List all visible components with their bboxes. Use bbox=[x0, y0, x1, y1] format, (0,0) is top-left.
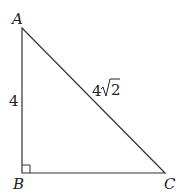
side-label-ac: 4 2 bbox=[92, 79, 121, 100]
triangle-abc bbox=[22, 28, 165, 173]
right-angle-marker bbox=[22, 165, 30, 173]
vertex-label-c: C bbox=[164, 175, 176, 193]
vertex-label-b: B bbox=[12, 175, 24, 193]
side-label-ac-coefficient: 4 bbox=[92, 82, 102, 100]
side-label-ab: 4 bbox=[9, 92, 19, 110]
side-label-ac-radicand: 2 bbox=[111, 81, 121, 99]
vertex-label-a: A bbox=[10, 10, 23, 28]
triangle-diagram: A B C 4 4 2 bbox=[0, 0, 187, 195]
